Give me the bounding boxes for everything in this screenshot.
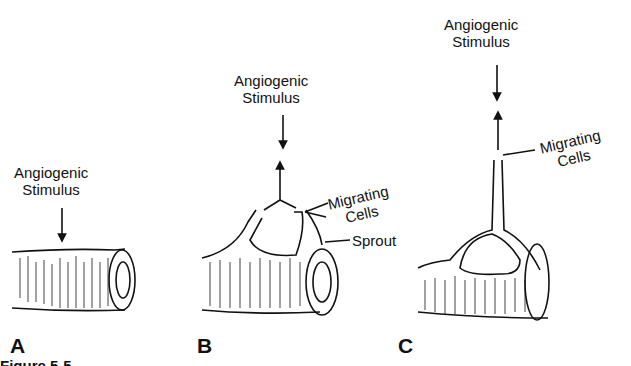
- panel-label-c: C: [398, 334, 413, 358]
- stimulus-line-1: Angiogenic: [444, 16, 518, 33]
- stimulus-line-2: Stimulus: [14, 181, 88, 198]
- sprout-label: Sprout: [352, 232, 396, 249]
- stimulus-label-c: Angiogenic Stimulus: [444, 16, 518, 50]
- stimulus-label-a: Angiogenic Stimulus: [14, 164, 88, 198]
- vessel-b: [202, 115, 350, 315]
- vessel-a: [12, 208, 135, 311]
- figure-caption: Figure 5-5: [0, 357, 72, 366]
- stimulus-line-1: Angiogenic: [234, 72, 308, 89]
- stimulus-line-1: Angiogenic: [14, 164, 88, 181]
- stimulus-label-b: Angiogenic Stimulus: [234, 72, 308, 106]
- angiogenesis-illustration: [0, 0, 631, 366]
- stimulus-line-2: Stimulus: [234, 89, 308, 106]
- stimulus-line-2: Stimulus: [444, 33, 518, 50]
- panel-label-a: A: [10, 334, 25, 358]
- panel-label-b: B: [197, 334, 212, 358]
- vessel-c: [418, 65, 549, 320]
